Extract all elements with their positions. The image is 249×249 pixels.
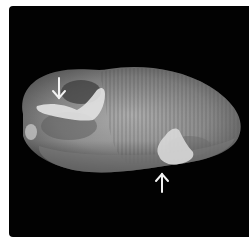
potato-photo bbox=[9, 6, 249, 237]
photo-panel bbox=[9, 6, 249, 237]
arrow-up-icon bbox=[156, 174, 168, 192]
